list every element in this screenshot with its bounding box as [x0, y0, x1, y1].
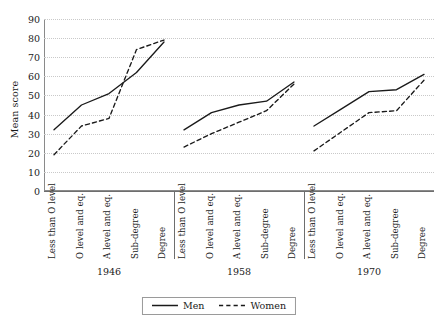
x-axis-category-label: Less than O level: [47, 183, 57, 259]
legend-swatch-dashed: [219, 302, 245, 309]
y-axis-tick-label: 40: [28, 109, 40, 120]
plot-area: 9080706050403020100: [44, 19, 434, 191]
x-axis-category-label: Degree: [287, 227, 297, 259]
group-separator: [174, 191, 175, 259]
category-axis-top-rule: [44, 191, 434, 192]
x-axis-category-label: Degree: [157, 227, 167, 259]
x-axis-category-label: Sub-degree: [390, 208, 400, 259]
y-axis-tick-label: 0: [34, 186, 40, 197]
x-axis-category-label: A level and eq.: [102, 194, 112, 259]
group-separator: [304, 191, 305, 259]
y-axis-tick-label: 20: [28, 147, 40, 158]
cohort-group-label-1958: 1958: [174, 266, 304, 277]
chart-legend: MenWomen: [142, 297, 296, 315]
x-axis-category-label: A level and eq.: [362, 194, 372, 259]
x-axis-category-label: Degree: [417, 227, 427, 259]
x-axis-category-label: O level and eq.: [335, 193, 345, 259]
legend-swatch-solid: [152, 302, 178, 309]
series-line-men-1970: [314, 74, 424, 126]
legend-label: Women: [250, 300, 286, 311]
series-line-women-1946: [54, 40, 164, 155]
cohort-group-label-1946: 1946: [44, 266, 174, 277]
y-axis-tick-label: 30: [28, 128, 40, 139]
legend-label: Men: [183, 300, 204, 311]
y-axis-tick-label: 60: [28, 71, 40, 82]
cohort-group-label-1970: 1970: [304, 266, 434, 277]
y-axis-title: Mean score: [9, 65, 20, 155]
x-axis-category-label: Less than O level: [177, 183, 187, 259]
y-axis-tick-label: 10: [28, 166, 40, 177]
x-axis-category-label: Sub-degree: [130, 208, 140, 259]
x-axis-category-label: O level and eq.: [75, 193, 85, 259]
chart-figure: Mean score 9080706050403020100 Less than…: [0, 0, 438, 322]
y-axis-tick-label: 90: [28, 14, 40, 25]
x-axis-category-label: A level and eq.: [232, 194, 242, 259]
y-axis-tick-label: 80: [28, 33, 40, 44]
y-axis-tick-label: 70: [28, 52, 40, 63]
y-axis-tick-label: 50: [28, 90, 40, 101]
series-lines: [44, 19, 434, 191]
legend-item-women[interactable]: Women: [219, 300, 286, 311]
x-axis-category-label: Sub-degree: [260, 208, 270, 259]
legend-item-men[interactable]: Men: [152, 300, 204, 311]
x-axis-category-label: Less than O level: [307, 183, 317, 259]
category-axis: Less than O levelO level and eq.A level …: [44, 191, 434, 279]
x-axis-category-label: O level and eq.: [205, 193, 215, 259]
